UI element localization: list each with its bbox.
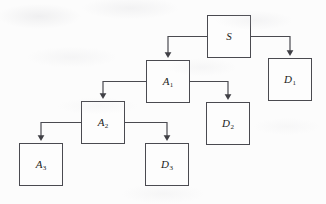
node-a1-subscript: 1: [170, 81, 174, 89]
node-a2-base: A: [98, 116, 105, 128]
node-d2[interactable]: D2: [206, 102, 250, 145]
node-a3[interactable]: A3: [19, 143, 63, 186]
node-d3-label: D3: [161, 159, 173, 170]
node-a2[interactable]: A2: [81, 101, 125, 144]
edge-s-to-a1: [168, 37, 207, 56]
edge-a1-to-d2: [190, 82, 228, 98]
node-d1-subscript: 1: [292, 79, 296, 87]
node-a1[interactable]: A1: [146, 60, 190, 103]
edge-a1-to-a2: [103, 82, 146, 97]
node-d2-subscript: 2: [230, 123, 234, 131]
edge-s-to-d1: [251, 37, 290, 54]
node-d1-label: D1: [284, 74, 296, 85]
node-a2-subscript: 2: [105, 122, 109, 130]
node-s[interactable]: S: [207, 15, 251, 58]
node-a3-subscript: 3: [43, 164, 47, 172]
node-a3-label: A3: [36, 159, 47, 170]
diagram-canvas: S D1 A1 D2 A2 D3 A3: [0, 0, 326, 204]
node-d3-base: D: [161, 158, 169, 170]
node-a1-base: A: [163, 75, 170, 87]
node-a2-label: A2: [98, 117, 109, 128]
node-d1-base: D: [284, 73, 292, 85]
node-d3-subscript: 3: [169, 164, 173, 172]
node-a3-base: A: [36, 158, 43, 170]
node-d2-label: D2: [222, 118, 234, 129]
edge-a2-to-d3: [125, 123, 167, 139]
node-d3[interactable]: D3: [145, 143, 189, 186]
edge-a2-to-a3: [41, 123, 81, 139]
node-a1-label: A1: [163, 76, 174, 87]
node-s-label: S: [226, 31, 232, 42]
node-d2-base: D: [222, 117, 230, 129]
node-d1[interactable]: D1: [268, 58, 312, 101]
